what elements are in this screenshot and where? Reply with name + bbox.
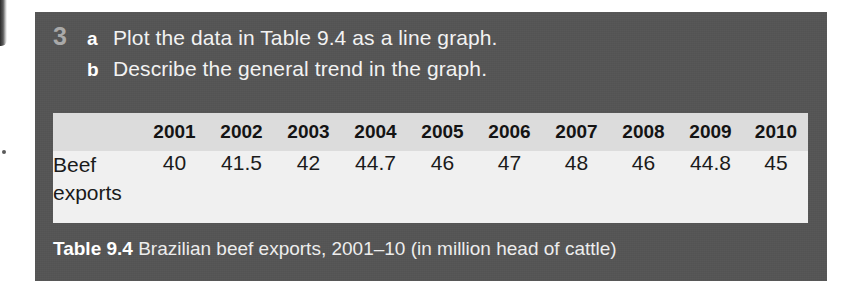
exercise-panel: 3 a Plot the data in Table 9.4 as a line… — [35, 12, 827, 281]
cell-2001: 40 — [141, 151, 208, 223]
cell-2009: 44.8 — [677, 151, 744, 223]
part-letter-b: b — [87, 60, 113, 79]
column-header-2010: 2010 — [744, 113, 808, 151]
cell-2008: 46 — [610, 151, 677, 223]
question-block: 3 a Plot the data in Table 9.4 as a line… — [53, 24, 817, 88]
table-row: Beefexports 40 41.5 42 44.7 46 47 48 46 … — [53, 151, 808, 223]
column-header-2009: 2009 — [677, 113, 744, 151]
table-corner-cell — [53, 113, 141, 151]
column-header-2007: 2007 — [543, 113, 610, 151]
column-header-2006: 2006 — [476, 113, 543, 151]
cell-2006: 47 — [476, 151, 543, 223]
page-edge-artifact — [0, 0, 7, 46]
cell-2002: 41.5 — [208, 151, 275, 223]
question-part-a: 3 a Plot the data in Table 9.4 as a line… — [53, 24, 817, 49]
page-edge-speck — [2, 150, 6, 154]
column-header-2001: 2001 — [141, 113, 208, 151]
column-header-2004: 2004 — [342, 113, 409, 151]
column-header-2002: 2002 — [208, 113, 275, 151]
column-header-2003: 2003 — [275, 113, 342, 151]
part-text-a: Plot the data in Table 9.4 as a line gra… — [113, 27, 498, 48]
beef-exports-table: 2001 2002 2003 2004 2005 2006 2007 2008 … — [53, 113, 808, 223]
cell-2004: 44.7 — [342, 151, 409, 223]
column-header-2005: 2005 — [409, 113, 476, 151]
cell-2007: 48 — [543, 151, 610, 223]
row-label-line2: exports — [53, 181, 122, 204]
cell-2005: 46 — [409, 151, 476, 223]
table-caption: Table 9.4 Brazilian beef exports, 2001–1… — [53, 238, 617, 260]
column-header-2008: 2008 — [610, 113, 677, 151]
cell-2010: 45 — [744, 151, 808, 223]
row-label-beef-exports: Beefexports — [53, 151, 141, 223]
part-letter-a: a — [87, 29, 113, 48]
question-part-b: b Describe the general trend in the grap… — [53, 58, 817, 79]
caption-label: Table 9.4 — [53, 238, 133, 259]
question-number: 3 — [53, 24, 87, 49]
table-header-row: 2001 2002 2003 2004 2005 2006 2007 2008 … — [53, 113, 808, 151]
cell-2003: 42 — [275, 151, 342, 223]
part-text-b: Describe the general trend in the graph. — [113, 58, 487, 79]
row-label-line1: Beef — [53, 153, 96, 176]
caption-text: Brazilian beef exports, 2001–10 (in mill… — [138, 238, 616, 259]
